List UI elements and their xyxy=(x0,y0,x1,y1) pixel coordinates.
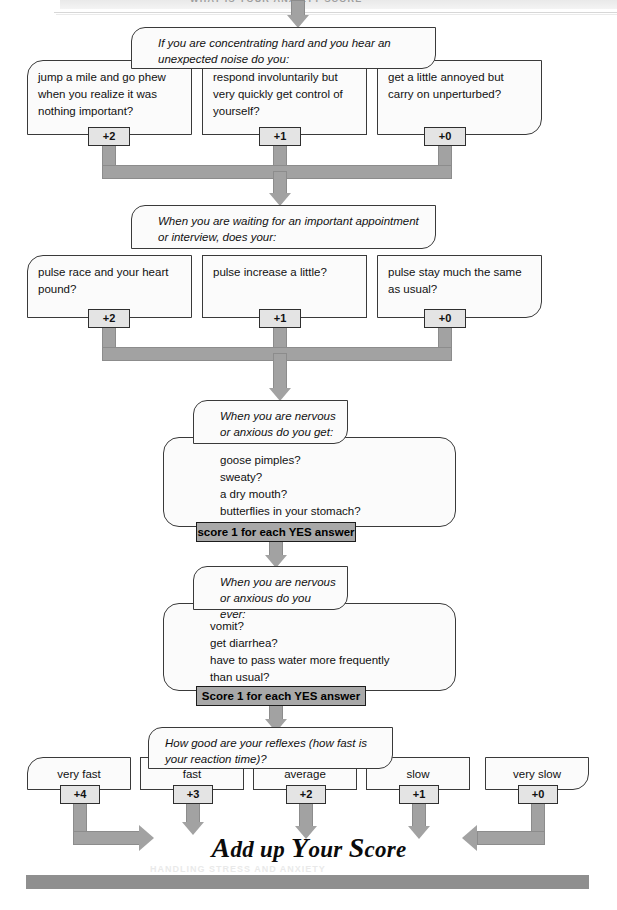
score-chip-noise-1: +2 xyxy=(88,127,130,146)
connector-drop-appointment xyxy=(273,353,287,390)
headline-word-your: our xyxy=(308,837,342,862)
connector-elbow-reflexes-1 xyxy=(73,831,141,845)
score-chip-reflexes-4: +1 xyxy=(399,785,439,804)
footer-bar xyxy=(26,875,589,889)
headline-cap-s: S xyxy=(349,832,365,863)
list-item: butterflies in your stomach? xyxy=(220,503,443,520)
list-item: than usual? xyxy=(210,669,443,686)
answer-box-noise-3[interactable]: get a little annoyed but carry on unpert… xyxy=(377,60,542,135)
headline-cap-a: A xyxy=(211,832,230,863)
list-item: goose pimples? xyxy=(220,452,443,469)
connector-stem-top xyxy=(291,0,305,16)
list-item: get diarrhea? xyxy=(210,635,443,652)
connector-arrowhead-reflexes-1 xyxy=(139,825,154,851)
connector-stem-reflexes-4 xyxy=(412,802,426,828)
connector-arrowhead-reflexes-5 xyxy=(462,825,477,851)
answer-list-nervous-ever[interactable]: vomit? get diarrhea? have to pass water … xyxy=(163,603,456,691)
header-rule xyxy=(54,12,617,13)
answer-list-nervous-get[interactable]: goose pimples? sweaty? a dry mouth? butt… xyxy=(163,437,456,527)
headline-word-score: core xyxy=(365,837,407,862)
question-prompt-appointment: When you are waiting for an important ap… xyxy=(131,205,436,249)
score-chip-appointment-1: +2 xyxy=(88,309,130,328)
question-prompt-reflexes: How good are your reflexes (how fast is … xyxy=(148,727,393,769)
score-chip-appointment-2: +1 xyxy=(259,309,301,328)
list-item: have to pass water more frequently xyxy=(210,652,443,669)
score-chip-appointment-3: +0 xyxy=(424,309,466,328)
score-chip-noise-2: +1 xyxy=(259,127,301,146)
list-item: vomit? xyxy=(210,618,443,635)
list-item: a dry mouth? xyxy=(220,486,443,503)
header-rule-secondary xyxy=(56,14,617,15)
page-header-title: WHAT IS YOUR ANXIETY SCORE xyxy=(190,0,362,4)
page-header-strip: WHAT IS YOUR ANXIETY SCORE xyxy=(60,0,617,9)
score-bar-nervous-ever: Score 1 for each YES answer xyxy=(196,686,366,706)
connector-stem-reflexes-3 xyxy=(299,802,313,828)
question-prompt-nervous-ever: When you are nervous or anxious do you e… xyxy=(193,566,348,610)
connector-stem-reflexes-2 xyxy=(186,802,200,824)
flowchart-page: WHAT IS YOUR ANXIETY SCORE If you are co… xyxy=(0,0,617,910)
page-title: Add up Your Score xyxy=(196,832,422,864)
score-chip-reflexes-3: +2 xyxy=(286,785,326,804)
answer-box-noise-1[interactable]: jump a mile and go phew when you realize… xyxy=(27,60,192,135)
score-chip-reflexes-2: +3 xyxy=(173,785,213,804)
list-item: sweaty? xyxy=(220,469,443,486)
question-prompt-nervous-get: When you are nervous or anxious do you g… xyxy=(193,400,348,444)
connector-drop-noise xyxy=(273,171,287,195)
headline-word-add: dd xyxy=(230,837,254,862)
answer-box-noise-2[interactable]: respond involuntarily but very quickly g… xyxy=(202,60,367,135)
footer-ghost-text: HANDLING STRESS AND ANXIETY xyxy=(150,864,470,872)
headline-word-up: up xyxy=(260,837,285,862)
connector-elbow-reflexes-5 xyxy=(477,831,545,845)
headline-cap-y: Y xyxy=(291,832,308,863)
score-chip-reflexes-1: +4 xyxy=(60,785,100,804)
score-chip-reflexes-5: +0 xyxy=(518,785,558,804)
question-prompt-noise: If you are concentrating hard and you he… xyxy=(131,27,436,69)
score-bar-nervous-get: score 1 for each YES answer xyxy=(196,522,356,542)
score-chip-noise-3: +0 xyxy=(424,127,466,146)
